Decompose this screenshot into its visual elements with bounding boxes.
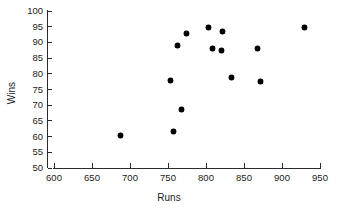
y-tick-label: 50 — [5, 163, 43, 173]
data-point — [175, 43, 180, 48]
x-tick-label: 900 — [274, 173, 290, 183]
x-tick-label: 600 — [46, 173, 62, 183]
x-tick-mark — [244, 163, 245, 168]
data-point — [184, 31, 189, 36]
y-tick-mark — [48, 26, 52, 27]
data-point — [302, 25, 307, 30]
x-tick-mark — [54, 163, 55, 168]
y-tick-mark — [48, 42, 52, 43]
y-tick-label: 90 — [5, 38, 43, 48]
data-point — [210, 46, 215, 51]
x-tick-label: 650 — [84, 173, 100, 183]
y-tick-label: 60 — [5, 132, 43, 142]
y-tick-mark — [48, 120, 52, 121]
x-tick-mark — [130, 163, 131, 168]
y-tick-mark — [48, 168, 52, 169]
x-tick-label: 700 — [122, 173, 138, 183]
y-tick-label: 95 — [5, 22, 43, 32]
y-tick-mark — [48, 152, 52, 153]
data-point — [255, 46, 260, 51]
data-point — [219, 48, 224, 53]
data-point — [220, 29, 225, 34]
y-tick-label: 85 — [5, 53, 43, 63]
x-tick-label: 950 — [312, 173, 328, 183]
x-axis-line — [53, 168, 321, 169]
y-tick-mark — [48, 58, 52, 59]
scatter-plot-figure: 50556065707580859095100 6006507007508008… — [0, 0, 338, 217]
x-tick-label: 850 — [236, 173, 252, 183]
y-tick-mark — [48, 73, 52, 74]
y-tick-mark — [48, 105, 52, 106]
x-axis-title: Runs — [0, 193, 338, 203]
x-tick-mark — [206, 163, 207, 168]
y-tick-mark — [48, 11, 52, 12]
x-tick-mark — [168, 163, 169, 168]
data-point — [258, 79, 263, 84]
x-tick-mark — [92, 163, 93, 168]
plot-area: 50556065707580859095100 6006507007508008… — [0, 0, 338, 217]
y-tick-mark — [48, 89, 52, 90]
data-point — [179, 107, 184, 112]
x-tick-label: 800 — [198, 173, 214, 183]
data-point — [229, 75, 234, 80]
x-tick-mark — [282, 163, 283, 168]
data-point — [206, 25, 211, 30]
x-tick-label: 750 — [160, 173, 176, 183]
x-tick-mark — [320, 163, 321, 168]
data-point — [168, 78, 173, 83]
y-tick-label: 55 — [5, 148, 43, 158]
y-tick-mark — [48, 136, 52, 137]
data-point — [171, 129, 176, 134]
y-axis-title: Wins — [7, 63, 17, 123]
data-point — [118, 133, 123, 138]
y-tick-label: 100 — [5, 6, 43, 16]
